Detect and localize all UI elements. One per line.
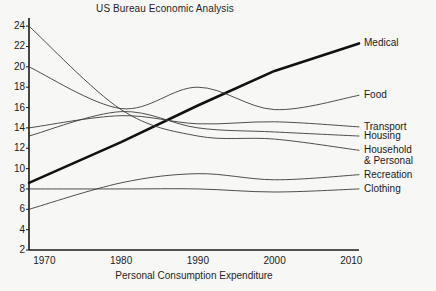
- y-tick-label: 24: [3, 20, 25, 31]
- series-label-housing: Housing: [364, 130, 401, 141]
- series-label-household-personal: Household& Personal: [364, 144, 413, 166]
- series-label-text: Household: [364, 144, 412, 155]
- y-tick-label: 18: [3, 81, 25, 92]
- series-line-household-personal: [29, 26, 359, 150]
- series-label-text: Food: [364, 89, 387, 100]
- series-label-text: Clothing: [364, 183, 401, 194]
- series-line-clothing: [29, 189, 359, 192]
- series-label-medical: Medical: [364, 37, 398, 48]
- series-paths: [29, 26, 359, 209]
- series-line-transport: [29, 116, 359, 128]
- y-tick-label: 20: [3, 61, 25, 72]
- y-tick-label: 2: [3, 244, 25, 255]
- y-tick-label: 6: [3, 203, 25, 214]
- series-label-food: Food: [364, 89, 387, 100]
- series-label-text: Housing: [364, 130, 401, 141]
- y-tick-label: 10: [3, 163, 25, 174]
- x-tick-label: 1990: [178, 255, 218, 266]
- series-label-text: Recreation: [364, 169, 412, 180]
- series-label-recreation: Recreation: [364, 169, 412, 180]
- y-tick-label: 4: [3, 224, 25, 235]
- x-tick-label: 2010: [331, 255, 371, 266]
- x-tick-label: 1970: [24, 255, 64, 266]
- series-label-text: Medical: [364, 37, 398, 48]
- y-tick-label: 14: [3, 122, 25, 133]
- y-tick-label: 12: [3, 142, 25, 153]
- y-tick-label: 22: [3, 40, 25, 51]
- chart-page: US Bureau Economic Analysis 246810121416…: [0, 0, 436, 291]
- y-tick-label: 8: [3, 183, 25, 194]
- y-tick-label: 16: [3, 102, 25, 113]
- series-label-clothing: Clothing: [364, 183, 401, 194]
- x-axis-title: Personal Consumption Expenditure: [29, 270, 359, 281]
- series-label-text-line2: & Personal: [364, 155, 413, 166]
- series-line-medical: [29, 43, 359, 182]
- x-tick-label: 2000: [255, 255, 295, 266]
- x-tick-label: 1980: [101, 255, 141, 266]
